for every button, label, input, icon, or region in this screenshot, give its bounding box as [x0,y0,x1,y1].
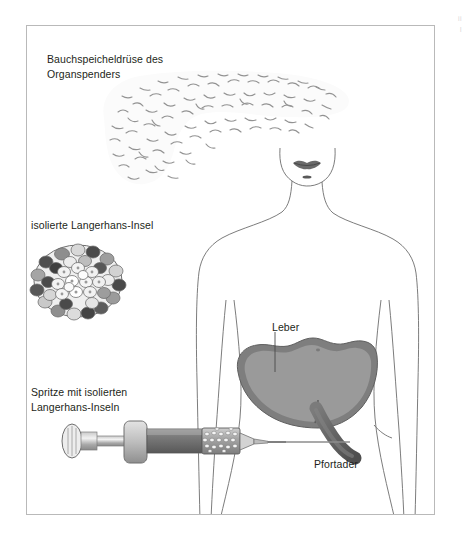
page-edge-fragment-top: ii [458,14,462,23]
label-portal-vein: Pfortader [314,457,358,472]
label-donor-pancreas: Bauchspeicheldrüse des Organspenders [47,52,163,81]
figure-root: Bauchspeicheldrüse des Organspenders iso… [0,0,464,534]
label-syringe: Spritze mit isolierten Langerhans-Inseln [31,385,127,414]
page-edge-fragment-bottom: I [460,25,462,34]
illustration-frame [26,25,435,515]
label-liver: Leber [272,320,299,335]
label-isolated-islet: isolierte Langerhans-Insel [31,218,153,233]
